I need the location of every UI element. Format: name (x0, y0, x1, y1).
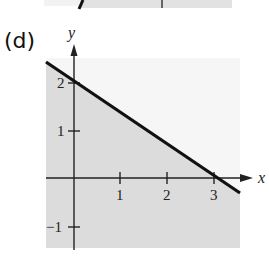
y-tick-label-neg1: −1 (46, 219, 62, 235)
y-axis-arrow-icon (71, 44, 78, 56)
y-tick-label-1: 1 (57, 123, 65, 139)
x-axis-label: x (257, 169, 265, 186)
previous-panel-fragment (44, 0, 232, 9)
inequality-graph-panel-d: (d) y x 1 2 3 2 1 −1 (0, 0, 269, 262)
previous-panel-shade (80, 0, 232, 8)
x-axis-arrow-icon (240, 174, 253, 182)
y-axis-label: y (66, 24, 76, 42)
panel-label: (d) (4, 28, 35, 53)
shaded-regions (46, 58, 240, 248)
x-tick-label-3: 3 (210, 187, 218, 203)
y-tick-label-2: 2 (57, 75, 65, 91)
previous-panel-light-shade (44, 0, 80, 6)
x-tick-label-2: 2 (163, 187, 171, 203)
x-tick-label-1: 1 (116, 187, 124, 203)
